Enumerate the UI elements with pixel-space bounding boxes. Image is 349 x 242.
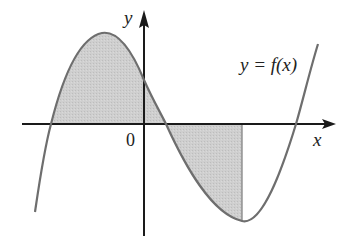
y-axis-label: y [122, 7, 133, 28]
graph-svg: y x 0 y = f(x) [0, 0, 349, 242]
function-graph-diagram: y x 0 y = f(x) [0, 0, 349, 242]
x-axis-label: x [312, 129, 322, 150]
shaded-area [51, 33, 242, 221]
curve-label: y = f(x) [238, 54, 297, 76]
origin-label: 0 [126, 130, 135, 150]
